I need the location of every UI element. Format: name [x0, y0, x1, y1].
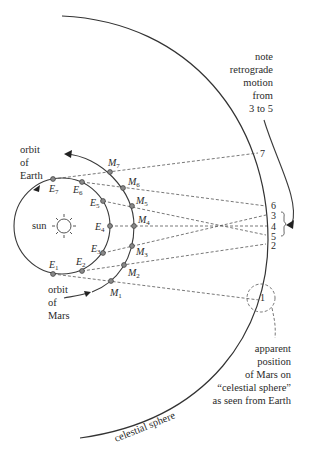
- svg-text:3 to 5: 3 to 5: [249, 103, 273, 114]
- svg-text:as seen from Earth: as seen from Earth: [213, 395, 292, 406]
- retrograde-brace: [281, 212, 286, 236]
- orbit-mars-label-1: orbit: [48, 284, 68, 295]
- earth-point-5: [101, 199, 106, 204]
- note-arrow: [264, 120, 294, 224]
- orbit-mars-label-3: Mars: [48, 310, 70, 321]
- label-E7: E7: [48, 183, 59, 196]
- sphere-pos-3: 3: [271, 210, 276, 221]
- earth-point-4: [108, 224, 113, 229]
- note-arrowhead-icon: [286, 220, 294, 229]
- mars-point-7: [108, 170, 113, 175]
- mars-orbit-arrow-icon: [84, 291, 91, 297]
- label-E3: E3: [90, 243, 101, 256]
- label-M1: M1: [109, 287, 122, 300]
- sphere-pos-7: 7: [260, 148, 265, 159]
- orbit-earth-label-1: orbit: [20, 144, 40, 155]
- mars-point-1: [109, 279, 114, 284]
- retrograde-diagram: sun E1 E2 E3 E4 E5 E6 E7 M1 M2 M3 M4 M5 …: [0, 0, 316, 462]
- label-M2: M2: [127, 267, 140, 280]
- svg-text:note: note: [255, 51, 273, 62]
- svg-text:motion: motion: [243, 77, 274, 88]
- svg-text:of Mars on: of Mars on: [245, 369, 292, 380]
- sun-label: sun: [32, 220, 47, 231]
- sphere-pos-6: 6: [271, 200, 276, 211]
- svg-text:apparent: apparent: [255, 343, 291, 354]
- apparent-pointer: [272, 308, 275, 338]
- label-M6: M6: [127, 176, 140, 189]
- svg-text:from: from: [253, 90, 273, 101]
- earth-point-7: [51, 177, 56, 182]
- svg-text:position: position: [257, 356, 292, 367]
- mars-point-3: [130, 244, 135, 249]
- earth-point-6: [80, 180, 85, 185]
- celestial-sphere-arc: [62, 16, 268, 438]
- label-E6: E6: [72, 184, 83, 197]
- mars-point-6: [121, 186, 126, 191]
- earth-point-1: [51, 272, 56, 277]
- sun-icon: [52, 214, 76, 238]
- label-E1: E1: [48, 259, 59, 272]
- earth-point-3: [101, 251, 106, 256]
- label-M5: M5: [135, 195, 148, 208]
- mars-orbit-arrow-top-icon: [64, 150, 72, 158]
- sphere-pos-5: 5: [271, 231, 276, 242]
- svg-text:retrograde: retrograde: [230, 64, 273, 75]
- orbit-earth-label-3: Earth: [20, 170, 43, 181]
- orbit-mars-label-2: of: [48, 297, 57, 308]
- sphere-pos-1: 1: [260, 292, 265, 303]
- label-M7: M7: [107, 157, 120, 170]
- mars-point-2: [122, 263, 127, 268]
- earth-point-2: [80, 269, 85, 274]
- label-M3: M3: [135, 246, 148, 259]
- mars-point-4: [132, 224, 137, 229]
- note-label: note retrograde motion from 3 to 5: [230, 51, 274, 114]
- celestial-sphere-label: celestial sphere: [113, 409, 177, 443]
- earth-orbit-arrow-icon: [33, 185, 40, 192]
- orbit-earth-label-2: of: [20, 157, 29, 168]
- svg-text:“celestial sphere”: “celestial sphere”: [217, 382, 291, 393]
- apparent-position-label: apparent position of Mars on “celestial …: [213, 343, 292, 406]
- mars-point-5: [130, 204, 135, 209]
- sight-lines: [53, 153, 267, 300]
- label-E5: E5: [89, 197, 100, 210]
- label-E4: E4: [94, 221, 105, 234]
- label-E2: E2: [75, 256, 86, 269]
- label-M4: M4: [137, 214, 150, 227]
